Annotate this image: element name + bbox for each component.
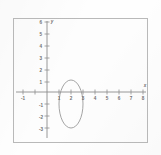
graph-figure: -1 1 2 3 4 5 6 7 8 6 5 4 3 2 1 -1 -2 -3 … [0, 0, 161, 155]
plot-frame-border [13, 18, 148, 143]
